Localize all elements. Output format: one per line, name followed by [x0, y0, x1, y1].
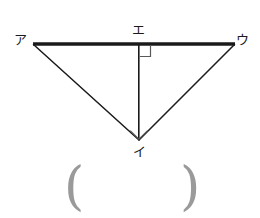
edge-right [139, 45, 235, 141]
edge-left [34, 45, 140, 141]
answer-blank-open-paren: ( [64, 160, 84, 212]
vertex-label-top-left: ア [14, 33, 27, 46]
answer-blank-close-paren: ) [180, 160, 200, 212]
right-angle-mark-square-icon [140, 46, 151, 57]
figure-canvas [0, 0, 260, 218]
geometry-figure: ア ウ エ イ ( ) [0, 0, 260, 218]
vertex-label-top-right: ウ [236, 33, 249, 46]
vertex-label-top-middle: エ [132, 23, 145, 36]
vertex-label-bottom: イ [133, 145, 146, 158]
